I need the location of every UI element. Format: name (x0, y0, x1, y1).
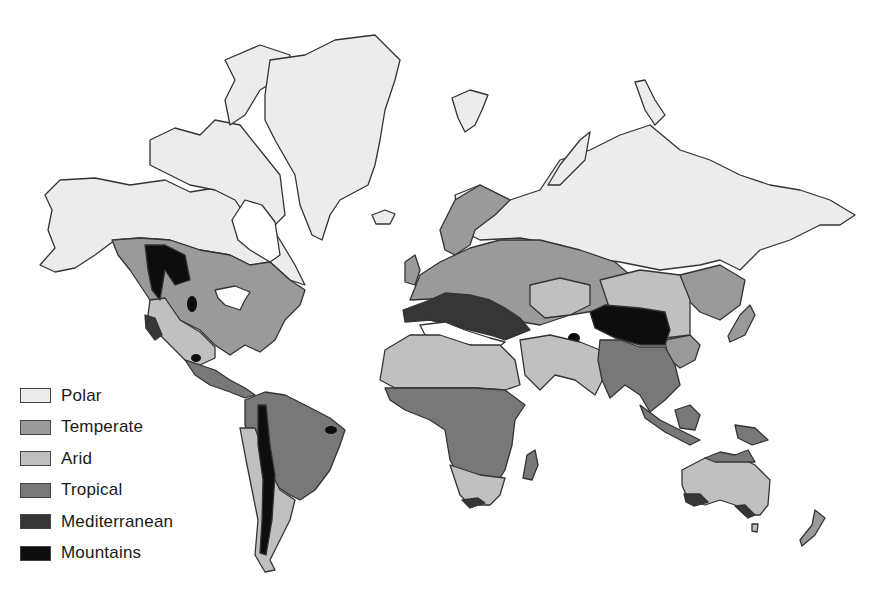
region-new-guinea (735, 425, 768, 445)
region-new-zealand (800, 510, 825, 546)
region-central-america-tropical (185, 360, 255, 398)
map-legend: Polar Temperate Arid Tropical Mediterran… (20, 380, 173, 569)
legend-item-arid: Arid (20, 443, 173, 475)
region-siberian-islands (635, 80, 665, 125)
region-south-asia-tropical (598, 340, 680, 412)
legend-swatch-polar (20, 388, 51, 403)
legend-label: Temperate (61, 417, 143, 437)
legend-label: Mediterranean (61, 512, 173, 532)
legend-item-mountains: Mountains (20, 538, 173, 570)
legend-swatch-temperate (20, 420, 51, 435)
region-iceland (372, 210, 395, 224)
legend-swatch-mountains (20, 546, 51, 561)
legend-item-temperate: Temperate (20, 412, 173, 444)
legend-swatch-arid (20, 451, 51, 466)
region-middle-east-arid (520, 335, 605, 395)
region-mexico-mountains (191, 354, 201, 362)
region-madagascar (523, 450, 538, 480)
legend-item-mediterranean: Mediterranean (20, 506, 173, 538)
legend-swatch-tropical (20, 483, 51, 498)
legend-item-polar: Polar (20, 380, 173, 412)
region-tibetan-plateau (590, 305, 670, 345)
region-greenland (265, 35, 400, 240)
legend-swatch-mediterranean (20, 514, 51, 529)
region-africa-tropical (385, 388, 525, 478)
region-tasmania (752, 524, 758, 532)
legend-item-tropical: Tropical (20, 475, 173, 507)
region-mountains-spot (187, 296, 197, 312)
region-brazil-mountains (325, 426, 337, 434)
legend-label: Arid (61, 449, 92, 469)
region-svalbard (452, 90, 488, 132)
legend-label: Polar (61, 386, 102, 406)
legend-label: Mountains (61, 543, 141, 563)
region-borneo (675, 405, 700, 430)
region-northern-australia-tropical (705, 450, 755, 462)
legend-label: Tropical (61, 480, 122, 500)
